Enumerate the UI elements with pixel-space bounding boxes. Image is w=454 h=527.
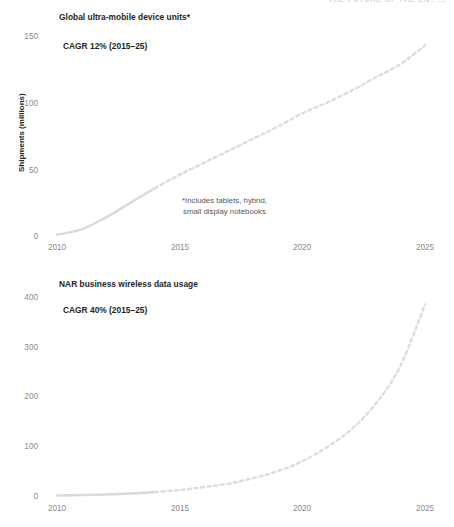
chart-1-footnote: *Includes tablets, hybrid, small display… (182, 196, 267, 217)
chart-1-line-dashed (155, 45, 425, 188)
chart-2-line-solid (57, 492, 155, 495)
chart-2-plot-area (0, 262, 454, 527)
chart-1-footnote-line-1: *Includes tablets, hybrid, (182, 196, 267, 207)
chart-1-line-solid (57, 188, 155, 235)
chart-panel-nar-business-wireless-data-usage: NAR business wireless data usage CAGR 40… (0, 262, 454, 527)
chart-1-plot-area (0, 0, 454, 262)
chart-1-footnote-line-2: small display notebooks (182, 207, 267, 218)
chart-panel-ultra-mobile-device-units: Global ultra-mobile device units* CAGR 1… (0, 0, 454, 262)
chart-2-line-dashed (155, 304, 425, 492)
